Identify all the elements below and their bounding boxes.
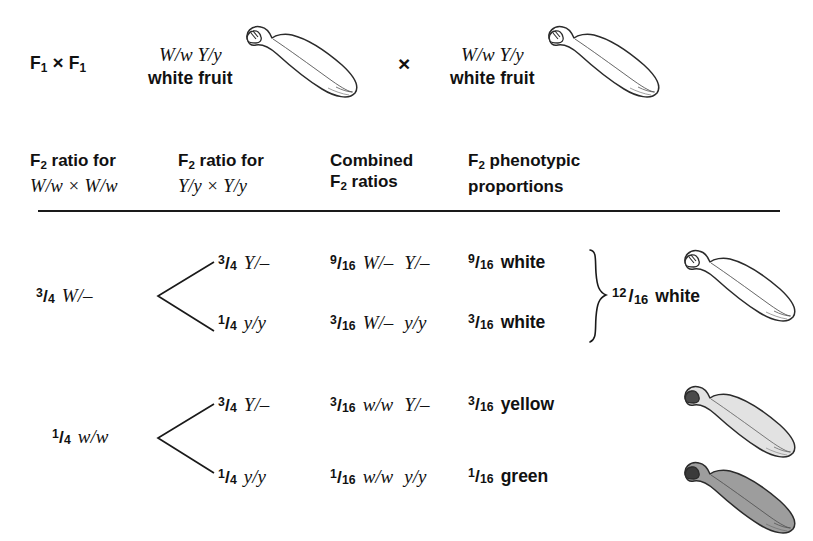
branch-W-child-1-ratio: 3/4 Y/– xyxy=(218,252,269,274)
parent-right-labels: W/w Y/y white fruit xyxy=(450,44,535,89)
branch-w-child-1-genotype: Y/– xyxy=(244,394,269,416)
branch-w-child-1-ratio: 3/4 Y/– xyxy=(218,394,269,416)
column-header-2: F2 ratio for Y/y × Y/y xyxy=(178,150,264,197)
parent-right-phenotype: white fruit xyxy=(450,68,535,89)
combined-ratio-row-4-genotype-b: y/y xyxy=(404,466,426,488)
combined-ratio-row-3-genotype-a: w/w xyxy=(363,394,394,416)
column-header-4: F2 phenotypic proportions xyxy=(468,150,580,197)
phenotype-row-3: 3/16 yellow xyxy=(468,394,554,415)
branch-W-parent-genotype: W/– xyxy=(62,285,93,307)
branch-W-parent-fraction: 3/4 xyxy=(36,286,55,307)
phenotype-row-2-fraction: 3/16 xyxy=(468,312,494,333)
branch-w-parent: 1/4 w/w xyxy=(52,426,108,448)
combined-ratio-row-2: 3/16 W/– y/y xyxy=(330,312,426,334)
column-header-3: Combined F2 ratios xyxy=(330,150,413,197)
combined-ratio-row-1-genotype-b: Y/– xyxy=(404,252,429,274)
combined-ratio-row-4-genotype-a: w/w xyxy=(363,466,394,488)
combined-ratio-row-1-fraction: 9/16 xyxy=(330,253,356,274)
squash-icon-green xyxy=(670,444,810,536)
column-header-1-line2: W/w × W/w xyxy=(30,176,118,197)
branch-W-child-2-fraction: 1/4 xyxy=(218,313,237,334)
cross-symbol: × xyxy=(398,52,410,76)
branch-W-connector xyxy=(150,258,220,336)
column-header-4-line2: proportions xyxy=(468,176,580,197)
column-header-1: F2 ratio for W/w × W/w xyxy=(30,150,118,197)
branch-W-child-2-genotype: y/y xyxy=(244,312,266,334)
branch-W-parent: 3/4 W/– xyxy=(36,285,92,307)
column-header-4-line1: F2 phenotypic xyxy=(468,150,580,176)
branch-W-child-1-genotype: Y/– xyxy=(244,252,269,274)
column-header-2-line2: Y/y × Y/y xyxy=(178,176,264,197)
combined-ratio-row-2-genotype-a: W/– xyxy=(363,312,394,334)
phenotype-row-2: 3/16 white xyxy=(468,312,545,333)
phenotype-row-4-label: green xyxy=(501,466,549,487)
summary-brace xyxy=(584,248,610,348)
parent-left-phenotype: white fruit xyxy=(148,68,233,89)
phenotype-row-1: 9/16 white xyxy=(468,252,545,273)
squash-icon-parent-left xyxy=(232,8,372,100)
branch-w-parent-fraction: 1/4 xyxy=(52,427,71,448)
phenotype-row-1-fraction: 9/16 xyxy=(468,252,494,273)
phenotype-row-4: 1/16 green xyxy=(468,466,548,487)
parent-right-genotype: W/w Y/y xyxy=(450,44,535,66)
branch-w-child-2-fraction: 1/4 xyxy=(218,467,237,488)
phenotype-row-2-label: white xyxy=(501,312,546,333)
branch-W-child-1-fraction: 3/4 xyxy=(218,253,237,274)
column-header-3-line2: F2 ratios xyxy=(330,171,413,197)
combined-ratio-row-2-genotype-b: y/y xyxy=(404,312,426,334)
generation-label: F1 × F1 xyxy=(30,52,86,75)
combined-ratio-row-4: 1/16 w/w y/y xyxy=(330,466,426,488)
combined-ratio-row-2-fraction: 3/16 xyxy=(330,313,356,334)
phenotype-row-3-fraction: 3/16 xyxy=(468,394,494,415)
figure-canvas: F1 × F1 W/w Y/y white fruit × W/w Y/y wh… xyxy=(0,0,813,541)
phenotype-row-4-fraction: 1/16 xyxy=(468,466,494,487)
header-divider xyxy=(38,210,780,212)
squash-icon-parent-right xyxy=(534,8,674,100)
branch-w-child-1-fraction: 3/4 xyxy=(218,395,237,416)
combined-ratio-row-1-genotype-a: W/– xyxy=(363,252,394,274)
column-header-2-line1: F2 ratio for xyxy=(178,150,264,176)
combined-ratio-row-3-genotype-b: Y/– xyxy=(404,394,429,416)
branch-w-connector xyxy=(150,400,220,478)
combined-ratio-row-1: 9/16 W/– Y/– xyxy=(330,252,430,274)
branch-W-child-2-ratio: 1/4 y/y xyxy=(218,312,266,334)
summary-fraction: 12/16 xyxy=(612,285,648,307)
parent-left-labels: W/w Y/y white fruit xyxy=(148,44,233,89)
branch-w-child-2-genotype: y/y xyxy=(244,466,266,488)
phenotype-row-1-label: white xyxy=(501,252,546,273)
branch-w-child-2-ratio: 1/4 y/y xyxy=(218,466,266,488)
combined-ratio-row-3: 3/16 w/w Y/– xyxy=(330,394,430,416)
column-header-1-line1: F2 ratio for xyxy=(30,150,118,176)
combined-ratio-row-4-fraction: 1/16 xyxy=(330,467,356,488)
column-header-3-line1: Combined xyxy=(330,150,413,171)
combined-ratio-row-3-fraction: 3/16 xyxy=(330,395,356,416)
branch-w-parent-genotype: w/w xyxy=(78,426,109,448)
phenotype-row-3-label: yellow xyxy=(501,394,555,415)
squash-icon-white xyxy=(670,232,810,324)
parent-left-genotype: W/w Y/y xyxy=(148,44,233,66)
